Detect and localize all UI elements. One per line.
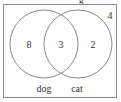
dog-label: dog <box>37 83 52 94</box>
dog-only-count: 8 <box>27 39 32 50</box>
cat-label: cat <box>71 83 83 94</box>
universal-set-box <box>4 5 117 98</box>
outside-count: 4 <box>108 10 113 21</box>
intersection-count: 3 <box>59 39 64 50</box>
cat-only-count: 2 <box>91 39 96 50</box>
venn-diagram: g 8 3 2 4 dog cat <box>0 0 121 102</box>
